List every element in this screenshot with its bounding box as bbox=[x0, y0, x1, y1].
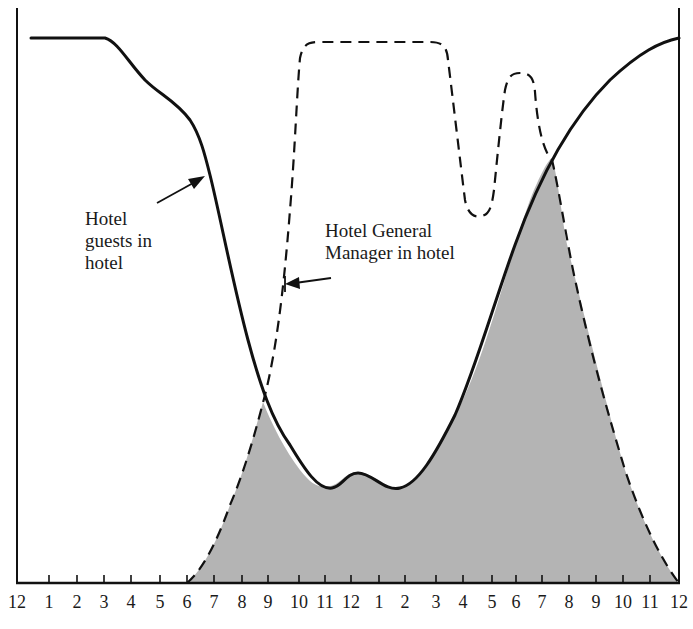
tick-label: 1 bbox=[45, 592, 54, 613]
tick-label: 4 bbox=[459, 592, 468, 613]
tick-label: 4 bbox=[127, 592, 136, 613]
tick-label: 10 bbox=[290, 592, 308, 613]
tick-label: 8 bbox=[238, 592, 247, 613]
tick-label: 3 bbox=[100, 592, 109, 613]
tick-label: 9 bbox=[264, 592, 273, 613]
tick-label: 5 bbox=[488, 592, 497, 613]
gm-annotation-arrow bbox=[285, 276, 331, 292]
tick-label: 6 bbox=[512, 592, 521, 613]
tick-label: 2 bbox=[401, 592, 410, 613]
gm-label: Hotel General Manager in hotel bbox=[325, 220, 455, 264]
tick-label: 2 bbox=[73, 592, 82, 613]
gm-label-line-2: Manager in hotel bbox=[325, 242, 455, 264]
guests-label-line-1: Hotel bbox=[85, 208, 152, 230]
tick-label: 9 bbox=[592, 592, 601, 613]
tick-label: 1 bbox=[375, 592, 384, 613]
guests-label: Hotel guests in hotel bbox=[85, 208, 152, 274]
tick-label: 11 bbox=[316, 592, 333, 613]
chart-canvas bbox=[0, 0, 693, 629]
tick-label: 12 bbox=[342, 592, 360, 613]
tick-label: 7 bbox=[210, 592, 219, 613]
tick-label: 7 bbox=[538, 592, 547, 613]
tick-label: 5 bbox=[156, 592, 165, 613]
gm-label-line-1: Hotel General bbox=[325, 220, 455, 242]
tick-label: 6 bbox=[183, 592, 192, 613]
tick-label: 12 bbox=[670, 592, 688, 613]
guests-label-line-3: hotel bbox=[85, 252, 152, 274]
tick-label: 12 bbox=[8, 592, 26, 613]
guests-label-line-2: guests in bbox=[85, 230, 152, 252]
guests-annotation-arrow bbox=[157, 176, 205, 203]
tick-label: 11 bbox=[641, 592, 658, 613]
tick-label: 8 bbox=[565, 592, 574, 613]
tick-label: 10 bbox=[614, 592, 632, 613]
tick-label: 3 bbox=[432, 592, 441, 613]
